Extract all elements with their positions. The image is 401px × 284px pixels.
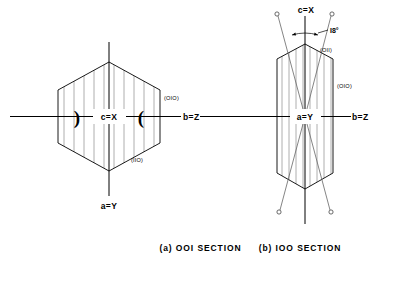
optic-axis-marker-lower-right <box>329 210 333 214</box>
angle-arrow-right-icon <box>314 33 318 36</box>
axis-label-b-z-right: b=Z <box>352 112 369 122</box>
caption-100-section: (b) IOO SECTION <box>200 243 400 253</box>
panel-100-section: I8° a=Y c=X b=Z b=Z (OII) (OIO) <box>200 0 400 284</box>
angle-arrow-left-icon <box>292 33 296 36</box>
panel-001-section: c=X ) ( b=Z a=Y (OIO) (IIO) <box>0 0 200 284</box>
face-label-010: (OIO) <box>337 83 352 89</box>
optic-axis-ray-upper-right <box>305 16 331 117</box>
center-label-c-x: c=X <box>101 112 118 122</box>
face-label-010: (OIO) <box>164 95 179 101</box>
axis-label-b-z: b=Z <box>183 112 200 122</box>
optic-bracket-right-icon: ( <box>138 107 144 129</box>
axis-label-a-y: a=Y <box>101 201 118 211</box>
angle-label-18deg: I8° <box>330 27 339 34</box>
face-label-011: (OII) <box>320 47 332 53</box>
optic-axis-marker-upper-left <box>275 12 279 16</box>
optic-axis-marker-lower-left <box>277 210 281 214</box>
optic-bracket-left-icon: ) <box>74 107 80 129</box>
center-label-a-y: a=Y <box>297 112 314 122</box>
optic-axis-marker-upper-right <box>330 12 334 16</box>
axis-label-c-x: c=X <box>298 5 315 15</box>
face-label-110: (IIO) <box>131 157 143 163</box>
optic-axis-ray-lower-left <box>280 117 305 211</box>
optic-axis-ray-lower-right <box>305 117 330 211</box>
diagram-001-section: c=X ) ( b=Z a=Y (OIO) (IIO) <box>0 0 200 240</box>
diagram-100-section: I8° a=Y c=X b=Z b=Z (OII) (OIO) <box>200 0 400 240</box>
